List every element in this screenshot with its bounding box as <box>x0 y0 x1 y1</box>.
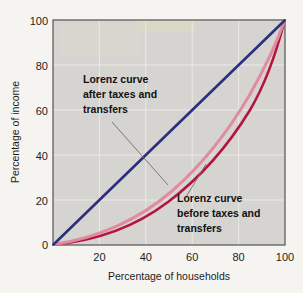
y-tick-label-0: 0 <box>42 239 48 251</box>
scan-tint-patch-top <box>140 20 195 32</box>
annotation-before-taxes-line-1: Lorenz curve <box>177 192 243 204</box>
chart-svg: Lorenz curve after taxes and transfers L… <box>0 0 303 293</box>
x-axis-title: Percentage of households <box>108 270 230 282</box>
annotation-after-taxes-line-3: transfers <box>83 103 128 115</box>
y-tick-label-20: 20 <box>36 195 48 207</box>
y-tick-label-40: 40 <box>36 150 48 162</box>
annotation-after-taxes-line-1: Lorenz curve <box>83 73 149 85</box>
x-tick-label-100: 100 <box>276 251 294 263</box>
x-tick-label-60: 60 <box>186 251 198 263</box>
annotation-after-taxes-line-2: after taxes and <box>83 88 157 100</box>
y-tick-label-80: 80 <box>36 60 48 72</box>
y-axis-title: Percentage of income <box>9 81 21 183</box>
x-tick-label-80: 80 <box>232 251 244 263</box>
y-tick-label-100: 100 <box>30 15 48 27</box>
scan-tint-patch-left <box>60 22 140 56</box>
annotation-before-taxes-line-2: before taxes and <box>177 207 260 219</box>
y-tick-label-60: 60 <box>36 105 48 117</box>
x-tick-label-20: 20 <box>93 251 105 263</box>
lorenz-curve-figure: Lorenz curve after taxes and transfers L… <box>0 0 303 293</box>
annotation-before-taxes-line-3: transfers <box>177 222 222 234</box>
x-tick-label-40: 40 <box>140 251 152 263</box>
